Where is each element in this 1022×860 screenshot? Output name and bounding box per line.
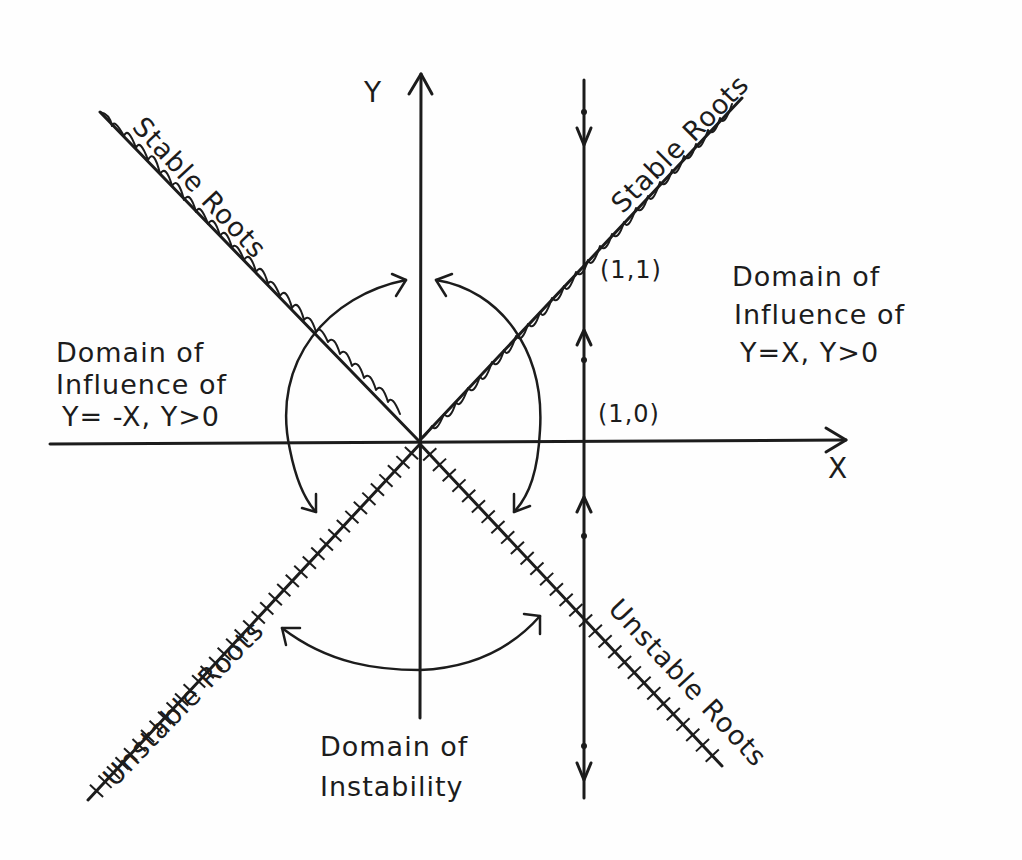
root-locus-diagram: Y X Stable Roots Stable Roots Unstable R… <box>0 0 1022 860</box>
y-axis <box>409 74 432 718</box>
right-domain-line1: Domain of <box>732 260 880 293</box>
left-domain-line3: Y= -X, Y>0 <box>62 400 220 433</box>
arc-bottom-domain <box>282 614 540 670</box>
point-1-1-label: (1,1) <box>600 254 662 287</box>
right-domain-line2: Influence of <box>734 298 905 331</box>
bottom-domain-line2: Instability <box>320 770 463 803</box>
left-domain-line1: Domain of <box>56 336 204 369</box>
right-domain-line3: Y=X, Y>0 <box>740 336 879 369</box>
unstable-roots-lower-right-line <box>420 444 722 766</box>
line-x-equals-1 <box>577 80 591 798</box>
left-domain-line2: Influence of <box>56 368 227 401</box>
y-axis-label: Y <box>364 76 382 109</box>
x-axis-label: X <box>828 452 848 485</box>
point-1-0-label: (1,0) <box>598 398 660 431</box>
bottom-domain-line1: Domain of <box>320 730 468 763</box>
